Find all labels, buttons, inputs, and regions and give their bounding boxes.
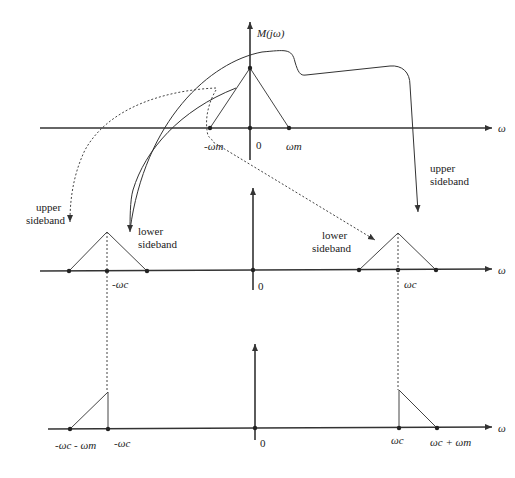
middle-omega-label: ω: [498, 264, 506, 276]
tick-zero-top: 0: [256, 139, 262, 151]
right-lower-label-2: sideband: [312, 242, 352, 254]
tick-omega-c-plus-omega-m: ωc + ωm: [430, 436, 471, 448]
mapping-arrows: [70, 51, 418, 240]
solid-arrow-to-right-upper-sideband: [130, 51, 418, 230]
tick-zero-middle: 0: [258, 280, 264, 292]
tick-omega-c-bottom: ωc: [391, 434, 404, 446]
message-spectrum-panel: M(jω) ω -ωm 0 ωm: [40, 22, 506, 160]
left-dsb-triangle: [69, 232, 147, 271]
left-ssb-triangle: [70, 392, 108, 429]
dsb-spectrum-panel: ω -ωc 0 ωc upper sideband lower sideband…: [26, 88, 506, 292]
tick-neg-omega-c: -ωc: [112, 278, 128, 290]
solid-arrow-to-left-lower-sideband: [130, 88, 236, 232]
tick-zero-bottom: 0: [260, 437, 266, 449]
tick-omega-c: ωc: [404, 278, 417, 290]
bottom-x-axis: [48, 427, 492, 429]
dotted-arrow-to-left-upper-sideband: [70, 88, 216, 222]
top-omega-label: ω: [498, 122, 506, 134]
ssb-spectrum-panel: ω -ωc - ωm -ωc 0 ωc ωc + ωm: [48, 344, 506, 451]
right-upper-label-1: upper: [430, 162, 455, 174]
dotted-arrow-to-right-lower-sideband: [207, 90, 375, 240]
tick-omega-m: ωm: [286, 140, 302, 152]
right-ssb-triangle: [399, 390, 437, 428]
right-lower-label-1: lower: [322, 229, 347, 241]
left-lower-label-2: sideband: [138, 238, 178, 250]
dsb-to-ssb-spectrum-diagram: M(jω) ω -ωm 0 ωm ω -ωc 0 ωc upper sideba…: [0, 0, 515, 478]
y-axis-label: M(jω): [256, 27, 285, 40]
left-upper-label-1: upper: [36, 201, 61, 213]
left-lower-label-1: lower: [138, 225, 163, 237]
left-upper-label-2: sideband: [26, 214, 66, 226]
tick-neg-omega-c-minus-omega-m: -ωc - ωm: [55, 439, 96, 451]
right-upper-label-2: sideband: [430, 175, 470, 187]
bottom-omega-label: ω: [498, 422, 506, 434]
tick-neg-omega-c-bottom: -ωc: [114, 437, 130, 449]
